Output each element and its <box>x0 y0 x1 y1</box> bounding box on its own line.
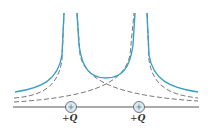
charge-symbol: Q <box>138 113 146 123</box>
charge-sign: + <box>130 113 138 123</box>
charge-right <box>134 102 145 113</box>
charge-sign: + <box>62 113 70 123</box>
charge-left <box>66 102 77 113</box>
total-potential-right <box>147 13 198 92</box>
total-potential-middle <box>77 13 135 78</box>
charge-symbol: Q <box>70 113 78 123</box>
potential-diagram <box>0 0 211 131</box>
charge-label-right: +Q <box>130 113 145 123</box>
charge-label-left: +Q <box>62 113 77 123</box>
total-potential-left <box>15 13 64 92</box>
